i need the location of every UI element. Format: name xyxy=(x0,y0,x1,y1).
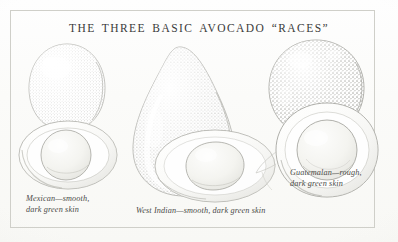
mexican-pit xyxy=(41,130,91,180)
caption-guatemalan: Guatemalan—rough, dark green skin xyxy=(290,168,362,189)
caption-mexican: Mexican—smooth, dark green skin xyxy=(26,194,89,215)
specimen-west-indian xyxy=(133,47,275,202)
specimen-mexican xyxy=(19,44,117,189)
mexican-cut-half xyxy=(19,121,117,189)
mexican-whole-fruit xyxy=(29,44,105,131)
caption-west-indian: West Indian—smooth, dark green skin xyxy=(136,206,266,217)
illustration-plate: THE THREE BASIC AVOCADO “RACES” xyxy=(0,0,398,242)
westindian-pit xyxy=(186,142,244,190)
westindian-cut-half xyxy=(155,130,275,202)
